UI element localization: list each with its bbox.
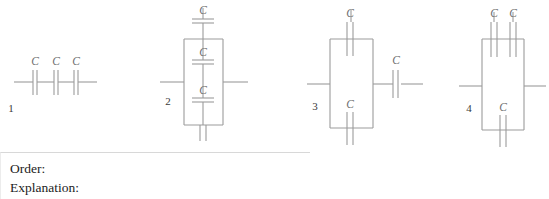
order-label: Order: [10, 161, 45, 176]
circuit-1-capacitor-2-label: C [52, 55, 60, 67]
circuit-1-capacitor-1-label: C [31, 55, 39, 67]
circuit-1-capacitor-1 [33, 70, 37, 95]
circuit-3-number: 3 [312, 100, 318, 112]
circuit-2-capacitor-top [192, 19, 214, 23]
circuit-2-number: 2 [165, 95, 171, 107]
circuit-4-capacitor-bottom-label: C [499, 101, 507, 113]
circuit-3: C C C 3 [307, 7, 423, 145]
circuit-3-capacitor-series [393, 70, 398, 98]
circuit-4-capacitor-top-1-label: C [490, 7, 498, 19]
order-line: Order: [10, 159, 310, 178]
circuit-1-capacitor-2 [54, 70, 58, 95]
circuit-3-capacitor-top-label: C [346, 7, 354, 19]
circuit-1-capacitor-3-label: C [72, 55, 80, 67]
circuit-figure: C C C 1 C [0, 0, 549, 148]
circuit-2-capacitor-middle [192, 60, 214, 64]
explanation-line: Explanation: [10, 178, 310, 197]
circuit-4: C C C 4 [459, 7, 546, 147]
circuit-2: C C C 2 [160, 4, 248, 141]
circuit-1: C C C 1 [8, 55, 97, 114]
circuit-2-capacitor-bottom [192, 98, 214, 102]
circuit-3-capacitor-bottom-label: C [346, 98, 354, 110]
answer-box: Order: Explanation: [0, 152, 310, 199]
circuit-4-capacitor-top-2-label: C [509, 7, 517, 19]
circuit-2-capacitor-top-label: C [199, 4, 207, 16]
circuit-4-number: 4 [466, 102, 472, 114]
circuit-diagram-svg: C C C 1 C [0, 0, 549, 148]
circuit-1-capacitor-3 [74, 70, 78, 95]
circuit-3-capacitor-series-label: C [392, 54, 400, 66]
circuit-2-capacitor-bottom-label: C [199, 84, 207, 96]
circuit-2-capacitor-middle-label: C [199, 46, 207, 58]
explanation-label: Explanation: [10, 180, 79, 195]
circuit-1-number: 1 [8, 102, 14, 114]
